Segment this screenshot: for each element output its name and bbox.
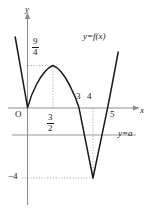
- x-tick-label-5: 5: [110, 110, 115, 119]
- curve-label: y=f(x): [83, 32, 106, 41]
- y-axis-label: y: [25, 5, 29, 14]
- x-axis-arrowhead: [133, 105, 140, 110]
- fraction-denominator: 4: [32, 48, 39, 57]
- graph-figure: y x O 3 4 5 −4 y=f(x) y=a 9 4 3 2: [0, 0, 151, 213]
- x-axis-label: x: [140, 106, 144, 115]
- fraction-denominator: 2: [47, 124, 54, 133]
- y-tick-label-minus-4: −4: [8, 172, 18, 181]
- graph-canvas: [0, 0, 151, 213]
- x-tick-label-4: 4: [87, 92, 92, 101]
- x-tick-label-3: 3: [76, 92, 81, 101]
- fraction-numerator: 3: [47, 113, 54, 122]
- origin-label: O: [15, 110, 22, 119]
- horizontal-line-label: y=a: [118, 129, 133, 138]
- x-tick-label-three-halves: 3 2: [47, 113, 54, 134]
- fraction-numerator: 9: [32, 37, 39, 46]
- y-tick-label-nine-fourths: 9 4: [32, 37, 39, 58]
